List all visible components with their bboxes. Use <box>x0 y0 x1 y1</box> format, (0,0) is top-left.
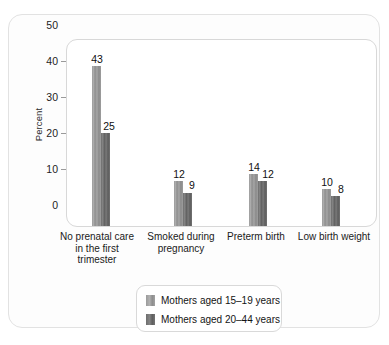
legend-swatch-icon-20-44 <box>146 314 155 325</box>
bar-value-no-prenatal-care-15-19: 43 <box>84 53 110 65</box>
y-tick-label-10: 10 <box>32 163 58 175</box>
x-label-low-birth-weight: Low birth weight <box>289 231 379 243</box>
y-tick-label-30: 30 <box>32 91 58 103</box>
legend-item-mothers-15-19: Mothers aged 15–19 years <box>146 291 281 309</box>
bar-value-smoked-during-pregnancy-20-44: 9 <box>179 179 205 191</box>
bar-value-preterm-birth-20-44: 12 <box>255 168 281 180</box>
x-label-no-prenatal-care: No prenatal care in the first trimester <box>51 231 143 266</box>
x-label-preterm-birth: Preterm birth <box>216 231 296 243</box>
y-tick-label-20: 20 <box>32 127 58 139</box>
bar-value-no-prenatal-care-20-44: 25 <box>96 120 122 132</box>
x-label-smoked-during-pregnancy: Smoked during pregnancy <box>137 231 225 254</box>
legend-label-20-44: Mothers aged 20–44 years <box>161 314 280 325</box>
bar-preterm-birth-20-44 <box>258 181 267 226</box>
bar-smoked-during-pregnancy-20-44 <box>183 193 192 227</box>
chart-legend: Mothers aged 15–19 years Mothers aged 20… <box>136 285 282 332</box>
bar-value-low-birth-weight-20-44: 8 <box>328 183 354 195</box>
y-tick-label-40: 40 <box>32 55 58 67</box>
y-tick-label-0: 0 <box>32 199 58 211</box>
legend-item-mothers-20-44: Mothers aged 20–44 years <box>146 310 281 328</box>
legend-label-15-19: Mothers aged 15–19 years <box>161 295 280 306</box>
legend-swatch-icon-15-19 <box>146 295 155 306</box>
bar-low-birth-weight-20-44 <box>331 196 340 226</box>
bar-chart-figure: Percent 50 40 30 20 10 0 43 25 12 9 1 <box>0 0 389 345</box>
y-tick-label-50: 50 <box>32 19 58 31</box>
plot-area: 43 25 12 9 14 12 10 8 <box>66 39 377 227</box>
bar-no-prenatal-care-20-44 <box>101 133 110 226</box>
chart-card: Percent 50 40 30 20 10 0 43 25 12 9 1 <box>8 14 380 328</box>
